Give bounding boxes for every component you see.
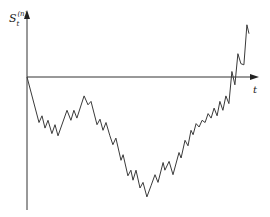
x-axis-label: t	[253, 84, 258, 95]
x-axis-arrowhead	[250, 74, 259, 80]
random-walk-path	[27, 25, 249, 197]
y-axis-label-sub: t	[17, 20, 20, 28]
y-axis-label-sup: (n)	[17, 10, 27, 18]
walk-layer	[27, 25, 249, 197]
random-walk-diagram: St(n) t	[0, 0, 270, 217]
